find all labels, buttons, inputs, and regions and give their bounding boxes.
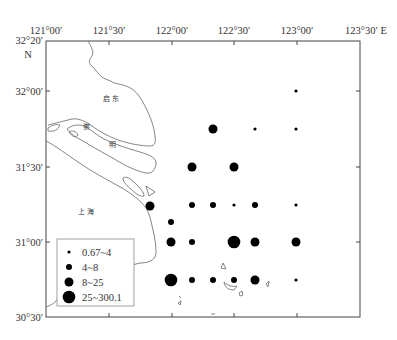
lat-label-32-00: 32°00′ bbox=[16, 86, 44, 97]
station-point bbox=[189, 239, 195, 245]
station-point bbox=[210, 277, 216, 283]
station-point bbox=[251, 238, 260, 247]
lat-label-30-30: 30°30′ bbox=[16, 312, 44, 323]
legend-label: 25~300.1 bbox=[82, 292, 122, 303]
coast-islet-changxing bbox=[123, 177, 144, 196]
coast-islet-west bbox=[48, 125, 60, 132]
station-point bbox=[252, 202, 258, 208]
top-axis-labels: 121°00′ 121°30′ 122°00′ 122°30′ 123°00′ … bbox=[30, 25, 387, 36]
lon-label-121-30: 121°30′ bbox=[93, 25, 126, 36]
station-point bbox=[210, 202, 216, 208]
station-point bbox=[167, 238, 176, 247]
sampling-station-map: 121°00′ 121°30′ 122°00′ 122°30′ 123°00′ … bbox=[0, 0, 397, 340]
station-point bbox=[189, 202, 195, 208]
station-point bbox=[294, 203, 297, 206]
station-point bbox=[253, 127, 256, 130]
station-point bbox=[251, 276, 260, 285]
legend-label: 4~8 bbox=[82, 262, 98, 273]
legend-label: 8~25 bbox=[82, 277, 103, 288]
lat-label-31-00: 31°00′ bbox=[16, 237, 44, 248]
station-point bbox=[165, 274, 178, 287]
station-point bbox=[188, 163, 197, 172]
station-point bbox=[228, 236, 241, 249]
coast-islet-triangle bbox=[146, 186, 155, 196]
legend-symbol bbox=[63, 291, 76, 304]
station-point bbox=[294, 127, 297, 130]
coast-chongming-inlet bbox=[69, 131, 78, 137]
lon-label-123-00: 123°00′ bbox=[281, 25, 314, 36]
legend-symbol bbox=[65, 278, 74, 287]
lon-label-122-00: 122°00′ bbox=[156, 25, 189, 36]
coast-islet-5 bbox=[178, 296, 181, 305]
label-shanghai: 上 海 bbox=[78, 207, 94, 216]
lat-label-32-20: 32°20′ bbox=[16, 35, 44, 46]
station-point bbox=[146, 202, 155, 211]
coast-islet-1 bbox=[221, 263, 226, 269]
coast-qidong bbox=[48, 41, 155, 146]
coast-islet-2 bbox=[224, 282, 237, 290]
station-point bbox=[168, 219, 174, 225]
label-qidong: 启 东 bbox=[103, 94, 119, 103]
lon-label-123-30: 123°30′ E bbox=[345, 25, 387, 36]
station-point bbox=[189, 277, 195, 283]
station-point bbox=[209, 125, 218, 134]
label-chong: 崇 bbox=[83, 123, 90, 131]
place-labels: 启 东 崇 明 上 海 bbox=[78, 94, 119, 216]
coast-islet-4 bbox=[266, 281, 269, 287]
station-point bbox=[292, 238, 301, 247]
lon-label-122-30: 122°30′ bbox=[218, 25, 251, 36]
legend-symbol bbox=[67, 250, 70, 253]
left-axis-labels: 32°20′ N 32°00′ 31°30′ 31°00′ 30°30′ bbox=[16, 35, 44, 323]
station-point bbox=[231, 277, 237, 283]
lat-label-n: N bbox=[24, 49, 32, 60]
legend: 0.67~44~88~2525~300.1 bbox=[57, 239, 134, 306]
label-ming: 明 bbox=[109, 141, 116, 149]
station-points bbox=[146, 89, 301, 286]
station-point bbox=[294, 89, 297, 92]
legend-symbol bbox=[66, 264, 72, 270]
coast-chongming bbox=[67, 125, 156, 173]
legend-label: 0.67~4 bbox=[82, 247, 112, 258]
lat-label-31-30: 31°30′ bbox=[16, 162, 44, 173]
station-point bbox=[232, 203, 235, 206]
coast-islet-3 bbox=[239, 291, 243, 296]
station-point bbox=[294, 278, 297, 281]
station-point bbox=[230, 163, 239, 172]
